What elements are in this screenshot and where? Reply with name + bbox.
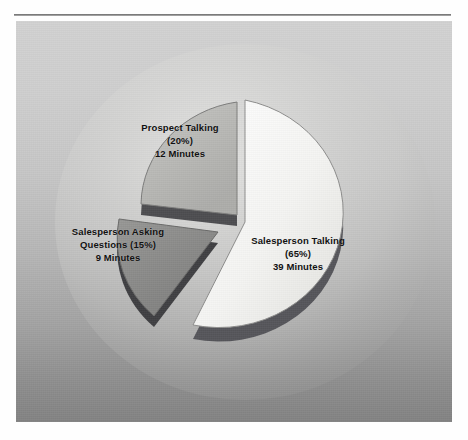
label-prospect-talking: Prospect Talking (20%) 12 Minutes bbox=[120, 121, 240, 160]
label-salesperson-asking-questions: Salesperson Asking Questions (15%) 9 Min… bbox=[54, 225, 182, 264]
label-salesperson-asking-questions-line3: 9 Minutes bbox=[54, 251, 182, 264]
page-header-rule bbox=[14, 14, 451, 16]
label-prospect-talking-line2: (20%) bbox=[120, 134, 240, 147]
label-salesperson-talking-line3: 39 Minutes bbox=[234, 260, 362, 273]
label-salesperson-talking-line2: (65%) bbox=[234, 247, 362, 260]
page-canvas: Prospect Talking (20%) 12 Minutes Salesp… bbox=[0, 0, 468, 440]
pie-chart-graphic bbox=[16, 21, 452, 422]
label-prospect-talking-line1: Prospect Talking bbox=[120, 121, 240, 134]
label-salesperson-asking-questions-line1: Salesperson Asking bbox=[54, 225, 182, 238]
label-salesperson-asking-questions-line2: Questions (15%) bbox=[54, 238, 182, 251]
label-salesperson-talking: Salesperson Talking (65%) 39 Minutes bbox=[234, 234, 362, 273]
label-prospect-talking-line3: 12 Minutes bbox=[120, 147, 240, 160]
pie-chart-panel: Prospect Talking (20%) 12 Minutes Salesp… bbox=[16, 21, 452, 422]
label-salesperson-talking-line1: Salesperson Talking bbox=[234, 234, 362, 247]
